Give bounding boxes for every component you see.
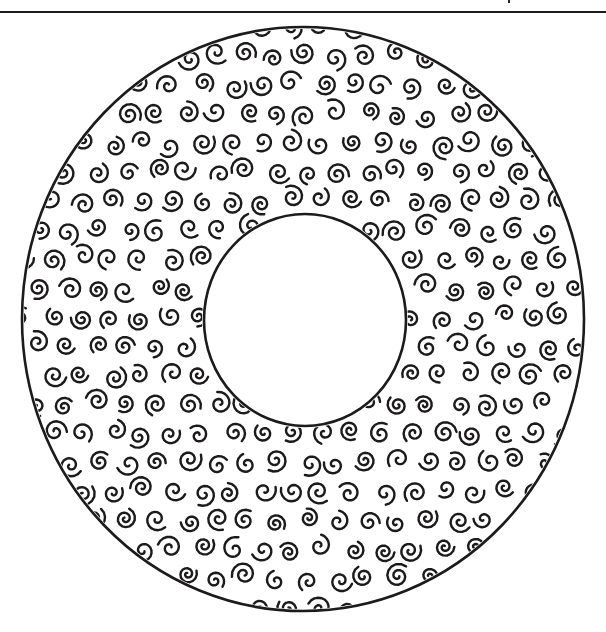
spiral-icon [497, 427, 511, 442]
spiral-icon [119, 397, 132, 413]
spiral-icon [268, 516, 285, 530]
spiral-icon [118, 509, 135, 527]
spiral-icon [450, 219, 469, 236]
spiral-icon [417, 215, 436, 234]
spiral-icon [523, 424, 543, 443]
spiral-icon [284, 130, 301, 151]
spiral-icon [462, 190, 479, 211]
spiral-icon [417, 112, 434, 127]
spiral-icon [225, 193, 242, 213]
spiral-icon [196, 539, 214, 554]
spiral-icon [340, 483, 358, 500]
spiral-icon [286, 186, 302, 205]
spiral-icon [191, 426, 207, 442]
spiral-icon [146, 105, 161, 122]
spiral-icon [494, 257, 509, 269]
spiral-icon [401, 544, 421, 561]
spiral-icon [415, 274, 436, 291]
spiral-icon [404, 80, 420, 99]
spiral-icon [520, 364, 541, 383]
spiral-icon [437, 541, 454, 556]
spiral-icon [458, 132, 478, 151]
spiral-icon [371, 423, 386, 441]
spiral-icon [286, 20, 301, 38]
spiral-icon [232, 159, 253, 176]
spiral-icon [568, 339, 582, 356]
spiral-icon [197, 74, 214, 91]
spiral-icon [430, 365, 444, 382]
spiral-icon [157, 76, 176, 91]
spiral-icon [161, 141, 177, 157]
spiral-icon [180, 568, 196, 582]
spiral-icon [448, 334, 467, 350]
spiral-icon [390, 108, 404, 124]
ring-illustration [0, 0, 606, 632]
spiral-icon [451, 514, 470, 532]
spiral-icon [401, 140, 416, 154]
spiral-icon [353, 567, 370, 585]
spiral-icon [176, 285, 192, 301]
spiral-icon [464, 363, 478, 381]
spiral-icon [146, 396, 164, 416]
spiral-icon [548, 247, 565, 268]
spiral-icon [419, 454, 437, 470]
spiral-icon [129, 314, 147, 329]
spiral-icon [232, 564, 253, 582]
spiral-icon [311, 16, 330, 33]
spiral-icon [537, 282, 553, 296]
spiral-icon [388, 450, 406, 466]
spiral-icon [313, 535, 329, 554]
spiral-icon [478, 283, 493, 299]
spiral-icon [252, 544, 271, 561]
spiral-icon [324, 460, 341, 473]
spiral-icon [116, 337, 135, 353]
spiral-icon [91, 337, 106, 352]
spiral-icon [309, 598, 329, 616]
spiral-icon [166, 250, 183, 270]
spiral-icon [419, 511, 438, 527]
spiral-icon [356, 453, 374, 471]
spiral-icon [453, 103, 471, 121]
spiral-icon [454, 165, 469, 183]
spiral-icon [77, 245, 93, 262]
spiral-icon [236, 510, 251, 528]
spiral-icon [207, 45, 226, 64]
spiral-icon [242, 105, 256, 122]
spiral-icon [364, 166, 381, 180]
spiral-icon [479, 395, 496, 415]
spiral-icon [466, 488, 484, 503]
spiral-icon [72, 194, 92, 211]
spiral-icon [121, 164, 137, 179]
spiral-icon [410, 194, 423, 210]
spiral-icon [209, 573, 224, 587]
spiral-icon [31, 331, 47, 350]
spiral-icon [163, 429, 180, 443]
spiral-icon [300, 168, 314, 184]
spiral-icon [477, 335, 493, 355]
spiral-icon [74, 424, 91, 441]
spiral-icon [534, 393, 549, 408]
spiral-icon [222, 483, 237, 501]
spiral-icon [509, 164, 527, 184]
spiral-icon [208, 510, 225, 530]
spiral-icon [522, 252, 536, 269]
spiral-icon [439, 482, 453, 497]
spiral-icon [147, 512, 165, 530]
spiral-icon [328, 100, 344, 119]
spiral-icon [355, 46, 373, 64]
spiral-icon [506, 449, 522, 466]
spiral-icon [509, 344, 525, 357]
spiral-icon [223, 135, 239, 154]
spiral-icon [404, 424, 421, 441]
spiral-icon [548, 302, 566, 323]
spiral-icon [228, 81, 247, 97]
spiral-icon [154, 280, 169, 294]
spiral-icon [524, 309, 541, 325]
spiral-icon [11, 307, 26, 324]
spiral-icon [101, 312, 116, 328]
spiral-icon [416, 396, 432, 411]
spiral-icon [258, 135, 271, 152]
spiral-icon [237, 454, 252, 472]
spiral-icon [534, 226, 554, 243]
spiral-icon [47, 421, 67, 438]
